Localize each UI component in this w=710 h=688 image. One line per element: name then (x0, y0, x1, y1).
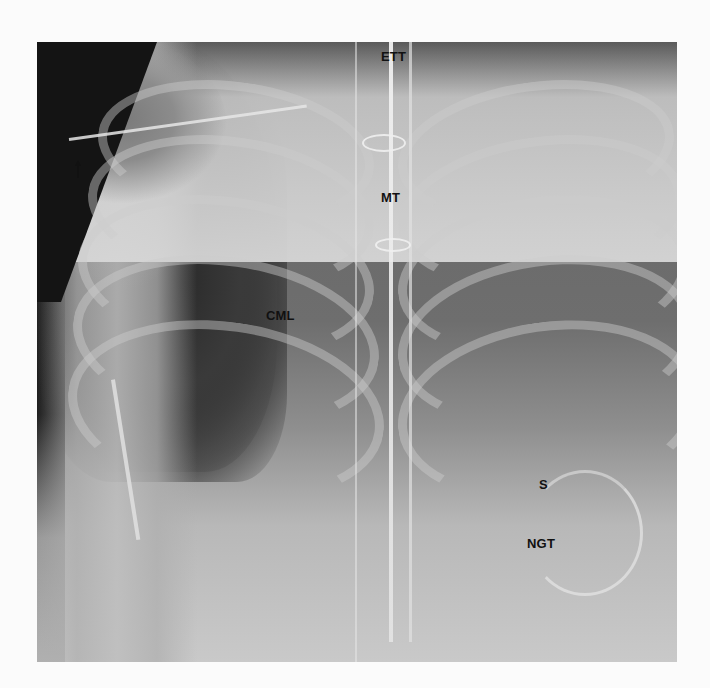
arrow-up-icon (75, 160, 81, 178)
label-ett: ETT (381, 50, 406, 63)
ecg-clip-marker (375, 238, 411, 252)
spinal-column-edge (355, 42, 357, 662)
label-ngt: NGT (527, 537, 555, 550)
label-mt: MT (381, 191, 400, 204)
endotracheal-tube-line (389, 42, 393, 642)
chest-xray-image: ETT MT CML S NGT (37, 42, 677, 662)
nasogastric-tube-line (409, 42, 412, 642)
ecg-clip-marker (362, 134, 406, 152)
label-cml: CML (266, 309, 295, 322)
label-s: S (539, 478, 548, 491)
